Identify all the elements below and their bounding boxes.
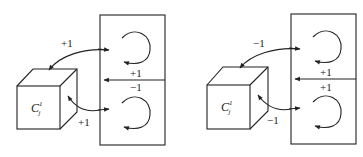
label-bottom-arrow-right: −1: [267, 114, 279, 126]
label-divider-upper-left: +1: [130, 67, 142, 79]
label-divider-lower-right: +1: [320, 81, 332, 93]
state-box-left: [100, 15, 165, 145]
self-loop-lower-right: [313, 96, 341, 128]
left-panel: C1j +1 +1 +1 −1: [17, 15, 165, 145]
arrow-box-to-cube-top-left: [49, 50, 108, 70]
arrow-box-to-cube-side-left: [68, 96, 100, 111]
state-box-right: [291, 14, 356, 144]
cube-left: C1j: [17, 69, 77, 129]
diagram-canvas: C1j +1 +1 +1 −1 C1j: [0, 0, 363, 157]
label-divider-upper-right: +1: [320, 66, 332, 78]
cube-right: C1j: [207, 67, 268, 129]
arrow-box-to-cube-side-right: [258, 95, 291, 110]
label-top-arrow-left: +1: [61, 37, 73, 49]
self-loop-upper-left: [122, 32, 150, 64]
self-loop-lower-left: [122, 97, 150, 129]
cube-label-right: C1j: [221, 99, 233, 116]
label-bottom-arrow-left: +1: [78, 116, 90, 128]
self-loop-upper-right: [313, 31, 341, 63]
right-panel: C1j −1 −1 +1 +1: [207, 14, 356, 144]
cube-label-left: C1j: [31, 100, 43, 117]
label-divider-lower-left: −1: [130, 81, 142, 93]
arrow-box-to-cube-top-right: [240, 49, 299, 68]
label-top-arrow-right: −1: [253, 37, 265, 49]
